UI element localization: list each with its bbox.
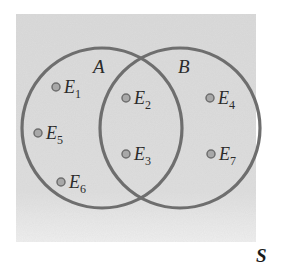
set-b-label: B bbox=[178, 56, 190, 77]
event-dot bbox=[207, 150, 215, 158]
event-dot bbox=[52, 83, 60, 91]
sample-space-label: S bbox=[256, 245, 267, 266]
venn-diagram: A B E1 E5 E6 E2 E3 E4 E7 S bbox=[0, 0, 286, 268]
set-a-label: A bbox=[91, 56, 105, 77]
event-dot bbox=[122, 150, 130, 158]
event-dot bbox=[206, 94, 214, 102]
event-dot bbox=[34, 129, 42, 137]
event-dot bbox=[57, 178, 65, 186]
event-dot bbox=[122, 94, 130, 102]
